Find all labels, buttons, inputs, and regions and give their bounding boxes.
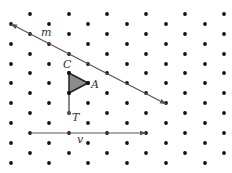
grid-dot xyxy=(105,111,109,115)
grid-dot xyxy=(28,52,32,56)
grid-dot xyxy=(203,62,207,66)
line-m-label: m xyxy=(41,26,51,39)
grid-dot xyxy=(144,12,148,16)
grid-dot xyxy=(86,22,90,26)
grid-dot xyxy=(183,151,187,155)
grid-dot xyxy=(164,81,168,85)
grid-dot xyxy=(203,22,207,26)
grid-dot xyxy=(28,12,32,16)
grid-dot xyxy=(222,12,226,16)
grid-dot xyxy=(47,161,51,165)
grid-dot xyxy=(203,81,207,85)
grid-dot xyxy=(28,71,32,75)
grid-dot xyxy=(222,71,226,75)
grid-dot xyxy=(125,161,129,165)
grid-dot xyxy=(47,141,51,145)
grid-dot xyxy=(47,62,51,66)
grid-dot xyxy=(222,52,226,56)
grid-dot xyxy=(67,12,71,16)
grid-dot xyxy=(144,151,148,155)
grid-dot xyxy=(222,111,226,115)
point-t xyxy=(67,111,71,115)
grid-dot xyxy=(9,62,13,66)
grid-dot xyxy=(164,121,168,125)
grid-dot xyxy=(9,101,13,105)
grid-dot xyxy=(164,141,168,145)
triangle-vertex-dot xyxy=(67,91,71,95)
grid-dot xyxy=(28,111,32,115)
grid-dot xyxy=(183,32,187,36)
grid-dot xyxy=(183,12,187,16)
grid-dot xyxy=(105,91,109,95)
grid-dot xyxy=(105,32,109,36)
grid-dot xyxy=(28,91,32,95)
grid-dot xyxy=(222,91,226,95)
triangle-vertex-dot xyxy=(86,81,90,85)
grid-dot xyxy=(222,151,226,155)
grid-dot xyxy=(9,141,13,145)
grid-dot xyxy=(144,32,148,36)
grid-dot xyxy=(144,111,148,115)
grid-dot xyxy=(164,42,168,46)
grid-dot xyxy=(183,71,187,75)
grid-dot xyxy=(183,111,187,115)
vertex-label-a: A xyxy=(90,78,99,91)
grid-dot xyxy=(9,161,13,165)
grid-dot xyxy=(9,42,13,46)
grid-dot xyxy=(203,161,207,165)
grid-dot xyxy=(67,32,71,36)
grid-dot xyxy=(86,121,90,125)
grid-dot xyxy=(164,62,168,66)
grid-dot xyxy=(203,42,207,46)
grid-dot xyxy=(86,161,90,165)
grid-dot xyxy=(47,81,51,85)
grid-dot xyxy=(105,12,109,16)
grid-dot xyxy=(125,62,129,66)
grid-dot xyxy=(125,42,129,46)
grid-dot xyxy=(144,52,148,56)
grid-dot xyxy=(203,101,207,105)
grid-dot xyxy=(144,71,148,75)
transformation-diagram: m C A T v xyxy=(0,0,232,173)
grid-dot xyxy=(86,101,90,105)
triangle-vertex-dot xyxy=(67,71,71,75)
grid-dot xyxy=(86,42,90,46)
vertex-label-c: C xyxy=(63,58,72,71)
grid-dot xyxy=(183,52,187,56)
triangle-shape xyxy=(69,73,88,93)
line-m xyxy=(11,24,166,104)
grid-dot xyxy=(222,131,226,135)
grid-dot xyxy=(28,151,32,155)
vector-v-label: v xyxy=(77,133,84,146)
grid-dot xyxy=(125,121,129,125)
grid-dot xyxy=(164,161,168,165)
grid-dot xyxy=(203,121,207,125)
grid-dot xyxy=(105,52,109,56)
grid-dot xyxy=(47,101,51,105)
grid-dot xyxy=(183,131,187,135)
grid-dot xyxy=(164,22,168,26)
grid-dot xyxy=(9,121,13,125)
grid-dot xyxy=(9,81,13,85)
grid-dot xyxy=(125,22,129,26)
grid-dot xyxy=(222,32,226,36)
grid-dot xyxy=(183,91,187,95)
grid-dot xyxy=(86,141,90,145)
grid-dot xyxy=(203,141,207,145)
grid-dot xyxy=(125,101,129,105)
grid-dot xyxy=(125,141,129,145)
grid-dot xyxy=(47,121,51,125)
point-label-t: T xyxy=(72,111,81,124)
grid-dot xyxy=(105,151,109,155)
grid-dot xyxy=(67,151,71,155)
